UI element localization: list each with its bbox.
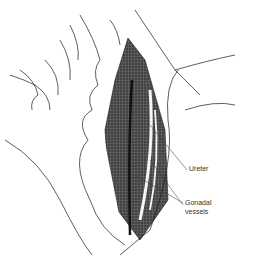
label-vessels: vessels xyxy=(185,208,208,216)
label-gonadal: Gonadal xyxy=(185,199,211,207)
label-ureter: Ureter xyxy=(189,165,208,173)
anatomical-illustration xyxy=(0,0,254,259)
